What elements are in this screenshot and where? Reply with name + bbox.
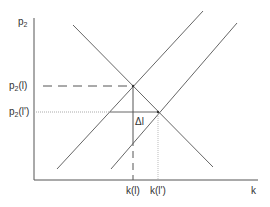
equilibrium-point-1 — [132, 85, 134, 87]
y-axis-label: p2 — [18, 17, 27, 28]
x-axis-label: k — [251, 186, 256, 196]
diagram: p2 p2(l) p2(l') Δl k(l) k(l') k — [0, 0, 270, 207]
y-tick-p2-lprime: p2(l') — [9, 107, 29, 118]
x-tick-k-lprime: k(l') — [150, 186, 166, 196]
x-tick-k-l: k(l) — [126, 186, 140, 196]
delta-l-annotation: Δl — [135, 117, 144, 127]
demand-line — [73, 25, 213, 167]
diagram-canvas — [0, 0, 270, 207]
supply-line-lower — [111, 23, 237, 169]
supply-line-upper — [57, 11, 203, 169]
y-tick-p2-l: p2(l) — [9, 81, 27, 92]
equilibrium-point-2 — [157, 111, 159, 113]
